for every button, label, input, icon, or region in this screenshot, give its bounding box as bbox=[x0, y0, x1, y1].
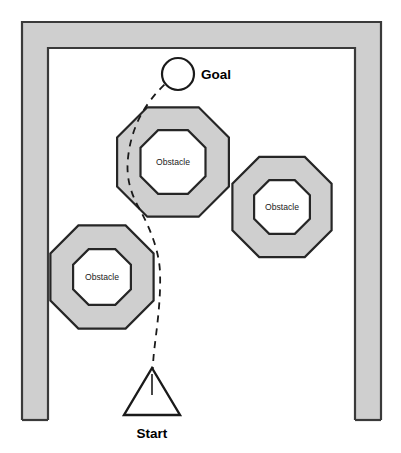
navigation-diagram: Obstacle Obstacle Obstacle Goal Start bbox=[0, 0, 401, 453]
obstacle-right: Obstacle bbox=[232, 157, 331, 257]
start-marker: Start bbox=[124, 368, 180, 441]
goal-label: Goal bbox=[201, 67, 231, 82]
start-label: Start bbox=[137, 426, 168, 441]
wall-left-segment bbox=[22, 22, 48, 420]
obstacle-left-label: Obstacle bbox=[85, 272, 119, 282]
obstacle-upper: Obstacle bbox=[117, 107, 229, 216]
goal-marker: Goal bbox=[162, 58, 231, 90]
obstacle-left: Obstacle bbox=[50, 225, 153, 328]
goal-circle-icon bbox=[162, 58, 194, 90]
obstacle-right-label: Obstacle bbox=[265, 202, 299, 212]
obstacle-upper-label: Obstacle bbox=[156, 157, 190, 167]
wall-right-segment bbox=[355, 22, 381, 420]
wall-top-segment bbox=[22, 22, 381, 48]
